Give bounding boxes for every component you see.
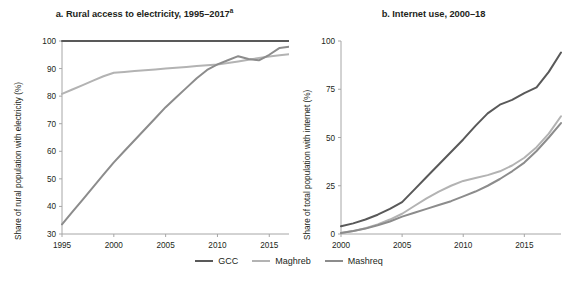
panel-b-xtick-label: 2000 [332, 241, 351, 250]
legend-label-gcc: GCC [218, 256, 238, 266]
panel-b-xtick-label: 2010 [454, 241, 473, 250]
panel-b-ytick-label: 75 [326, 85, 336, 94]
legend-label-mashreq: Mashreq [348, 256, 383, 266]
panel-b-ytick-label: 50 [326, 134, 336, 143]
legend-swatch-gcc [195, 260, 213, 263]
panel-a-ytick-label: 60 [47, 147, 57, 156]
panel-a-ytick-label: 80 [47, 92, 57, 101]
panel-a-ytick-label: 100 [42, 37, 56, 46]
panel-a-ytick-label: 40 [47, 202, 57, 211]
figure-container: a. Rural access to electricity, 1995–201… [0, 0, 578, 284]
panel-b-xtick-label: 2015 [515, 241, 534, 250]
panel-a-series [62, 41, 289, 224]
panel-b-xtick-label: 2005 [393, 241, 412, 250]
panel-b-ytick-label: 25 [326, 182, 336, 191]
panel-a-xtick-label: 1995 [53, 241, 72, 250]
legend-item-gcc: GCC [195, 256, 238, 266]
legend-swatch-mashreq [325, 260, 343, 263]
panel-a-xtick-label: 2010 [208, 241, 227, 250]
panel-a-line-mashreq [62, 47, 289, 225]
panels-row: a. Rural access to electricity, 1995–201… [0, 0, 578, 252]
panel-a-y-ticks: 30405060708090100 [42, 37, 62, 239]
panel-a: a. Rural access to electricity, 1995–201… [0, 0, 289, 252]
legend-item-maghreb: Maghreb [252, 256, 311, 266]
panel-b-axes [341, 41, 561, 234]
panel-a-plot: 30405060708090100 19952000200520102015 [0, 0, 289, 252]
panel-a-ytick-label: 90 [47, 65, 57, 74]
panel-a-ytick-label: 50 [47, 175, 57, 184]
panel-a-ytick-label: 30 [47, 230, 57, 239]
panel-b-y-ticks: 0255075100 [321, 37, 341, 239]
panel-a-xtick-label: 2015 [260, 241, 279, 250]
legend-label-maghreb: Maghreb [275, 256, 311, 266]
panel-a-xtick-label: 2000 [105, 241, 124, 250]
panel-a-axes [62, 41, 289, 234]
chart-legend: GCC Maghreb Mashreq [0, 256, 578, 266]
panel-b-plot: 0255075100 2000200520102015 [289, 0, 578, 252]
panel-a-xtick-label: 2005 [157, 241, 176, 250]
legend-item-mashreq: Mashreq [325, 256, 383, 266]
panel-b-ytick-label: 100 [321, 37, 335, 46]
legend-swatch-maghreb [252, 260, 270, 263]
panel-b-ytick-label: 0 [330, 230, 335, 239]
panel-a-x-ticks: 19952000200520102015 [53, 234, 279, 250]
panel-b-series [341, 53, 561, 233]
panel-a-ytick-label: 70 [47, 120, 57, 129]
panel-b: b. Internet use, 2000–18 Share of total … [289, 0, 578, 252]
panel-b-x-ticks: 2000200520102015 [332, 234, 534, 250]
